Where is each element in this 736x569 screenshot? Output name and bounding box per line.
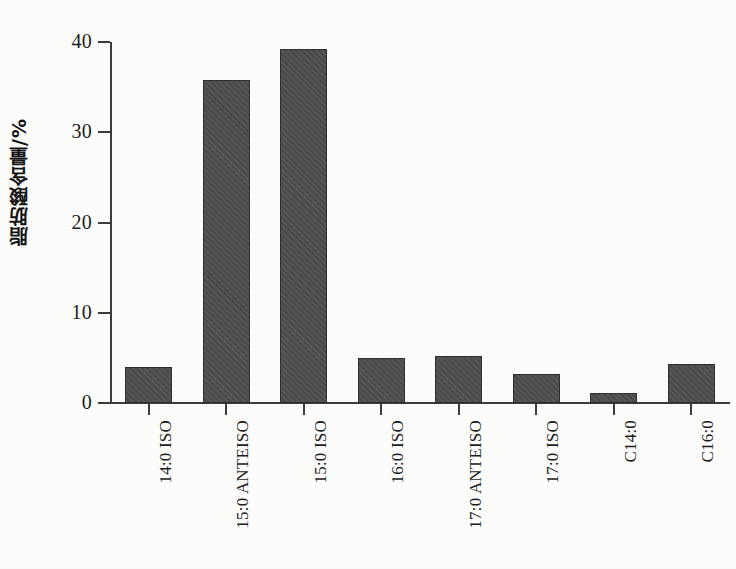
x-axis-tick-label: 17:0 ANTEISO xyxy=(467,420,484,529)
x-axis-tick-label: 15:0 ISO xyxy=(312,420,329,483)
plot-area xyxy=(110,42,730,403)
y-axis-tick-label: 0 xyxy=(40,392,92,412)
x-axis-tick xyxy=(535,404,537,415)
bar xyxy=(203,80,250,403)
y-axis-tick xyxy=(98,312,110,314)
x-axis-tick xyxy=(690,404,692,415)
x-axis-tick-label: 16:0 ISO xyxy=(389,420,406,483)
y-axis-tick-label: 10 xyxy=(40,302,92,322)
bar xyxy=(668,364,715,403)
x-axis-tick-label: C16:0 xyxy=(699,420,716,463)
figure-canvas: 脂肪酸含量/% 010203040 14:0 ISO15:0 ANTEISO15… xyxy=(0,0,736,569)
bar xyxy=(358,358,405,403)
y-axis-tick xyxy=(98,131,110,133)
x-axis-tick-label: 17:0 ISO xyxy=(544,420,561,483)
y-axis-tick-label: 20 xyxy=(40,212,92,232)
y-axis-tick xyxy=(98,402,110,404)
x-axis-tick xyxy=(458,404,460,415)
x-axis-tick-label: C14:0 xyxy=(622,420,639,463)
bar xyxy=(125,367,172,403)
bar xyxy=(590,393,637,403)
x-axis-tick xyxy=(225,404,227,415)
x-axis-tick xyxy=(613,404,615,415)
bar xyxy=(435,356,482,403)
y-axis-tick-label: 40 xyxy=(40,31,92,51)
y-axis-tick-label: 30 xyxy=(40,121,92,141)
bar xyxy=(513,374,560,403)
x-axis-tick xyxy=(380,404,382,415)
y-axis-title: 脂肪酸含量/% xyxy=(6,118,36,246)
x-axis-tick xyxy=(148,404,150,415)
y-axis-tick xyxy=(98,222,110,224)
x-axis-tick-label: 14:0 ISO xyxy=(157,420,174,483)
x-axis-tick-label: 15:0 ANTEISO xyxy=(234,420,251,529)
x-axis-tick xyxy=(303,404,305,415)
bar xyxy=(280,49,327,403)
y-axis-tick xyxy=(98,41,110,43)
